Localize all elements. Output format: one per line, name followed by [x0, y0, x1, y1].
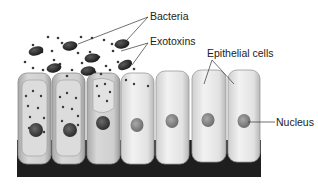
healthy-cell-7 [228, 70, 260, 162]
healthy-cell-4 [121, 73, 154, 164]
label-epithelial-cells: Epithelial cells [207, 48, 274, 59]
label-bacteria: Bacteria [150, 11, 189, 22]
healthy-cell-6 [192, 70, 226, 162]
damaged-cell-1 [18, 73, 51, 164]
damaged-cell-3 [87, 73, 120, 164]
healthy-cell-5 [156, 71, 189, 164]
label-exotoxins: Exotoxins [150, 36, 196, 47]
damaged-cell-2 [52, 73, 85, 164]
label-nucleus: Nucleus [276, 117, 314, 128]
epithelial-cell-row [18, 70, 260, 164]
exotoxin-diagram: Bacteria Exotoxins Epithelial cells Nucl… [0, 0, 318, 184]
diagram-illustration [0, 0, 318, 184]
